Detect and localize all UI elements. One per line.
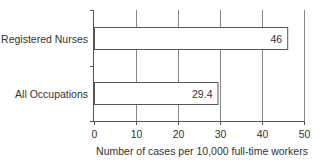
x-tick-labels: 01020304050: [92, 122, 311, 140]
bar-value-label: 29.4: [192, 88, 213, 100]
category-label: Registered Nurses: [1, 33, 88, 45]
bar-registered-nurses: [95, 28, 288, 50]
axes: [90, 10, 305, 122]
x-axis-label: Number of cases per 10,000 full-time wor…: [96, 145, 308, 157]
bars: 4629.4: [95, 28, 288, 105]
x-tick-label: 40: [257, 128, 269, 140]
x-tick-label: 30: [215, 128, 227, 140]
x-tick-label: 10: [131, 128, 143, 140]
category-labels: Registered NursesAll Occupations: [1, 33, 88, 100]
x-tick-label: 50: [299, 128, 311, 140]
bar-value-label: 46: [271, 33, 283, 45]
x-tick-label: 0: [92, 128, 98, 140]
x-tick-label: 20: [173, 128, 185, 140]
category-label: All Occupations: [15, 88, 88, 100]
gridlines: [137, 10, 305, 122]
bar-chart: 4629.4 01020304050 Registered NursesAll …: [0, 0, 322, 163]
